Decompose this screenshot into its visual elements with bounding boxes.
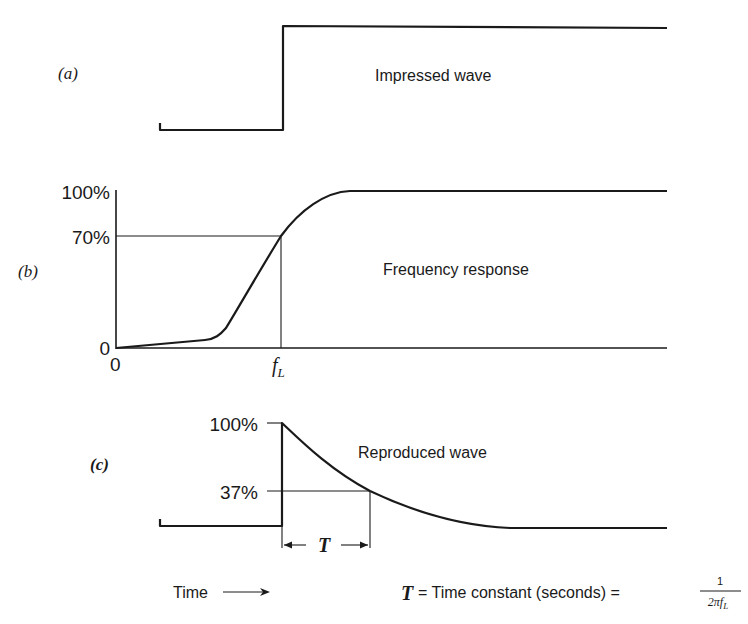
y-tick-100-c: 100% [209,414,258,435]
frequency-response-title: Frequency response [383,261,529,278]
time-arrow-icon [223,588,270,596]
footer: Time T = Time constant (seconds) = 1 2πf… [173,575,741,611]
panel-c-label: (c) [90,455,109,474]
formula-fraction: 1 2πfL [700,575,741,611]
y-tick-100: 100% [61,182,110,203]
impressed-wave-title: Impressed wave [375,67,492,84]
formula-symbol: T [401,582,414,604]
panel-a: (a) Impressed wave [58,26,667,130]
panel-c: (c) 100% 37% T Reproduced wave [90,414,667,556]
reproduced-wave-curve [160,423,667,528]
reproduced-wave-title: Reproduced wave [358,444,487,461]
waveform-figure: (a) Impressed wave (b) 100% 70% 0 0 fL F… [0,0,748,624]
time-constant-interval: T [284,534,368,556]
panel-a-label: (a) [58,64,78,83]
x-tick-0: 0 [110,354,121,375]
panel-b-label: (b) [18,262,38,281]
formula-text: = Time constant (seconds) = [418,584,620,601]
fraction-numerator: 1 [717,575,723,587]
panel-b: (b) 100% 70% 0 0 fL Frequency response [18,182,667,380]
time-constant-label: T [318,534,331,556]
y-tick-0: 0 [99,338,110,359]
y-tick-70: 70% [72,227,110,248]
time-label: Time [173,584,208,601]
fraction-denominator: 2πfL [708,595,728,611]
y-tick-37: 37% [220,482,258,503]
x-tick-fl: fL [272,354,285,380]
